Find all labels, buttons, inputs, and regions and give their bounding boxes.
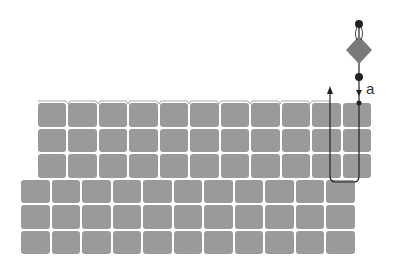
diamond-bead-icon — [346, 36, 372, 64]
arrow-down-icon — [356, 90, 362, 96]
top-edge-line — [38, 101, 330, 104]
label-a: a — [366, 80, 374, 97]
round-bead-icon — [355, 73, 363, 81]
arrow-up-icon — [327, 86, 333, 94]
threading-path-overlay — [0, 0, 395, 277]
entry-point — [357, 101, 362, 106]
